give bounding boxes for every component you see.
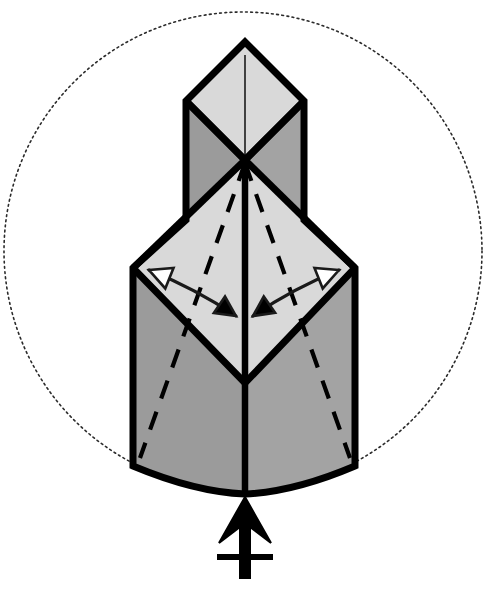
origami-diagram-canvas (0, 0, 488, 594)
origami-diagram-figure (0, 0, 488, 594)
